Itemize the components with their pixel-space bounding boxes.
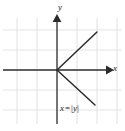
x-axis-label: x [113,64,117,73]
math-figure: y x x=|y| [0,0,125,131]
equation-label: x=|y| [60,104,79,113]
y-axis-label: y [58,3,62,12]
abs-bar-close: | [77,103,79,113]
